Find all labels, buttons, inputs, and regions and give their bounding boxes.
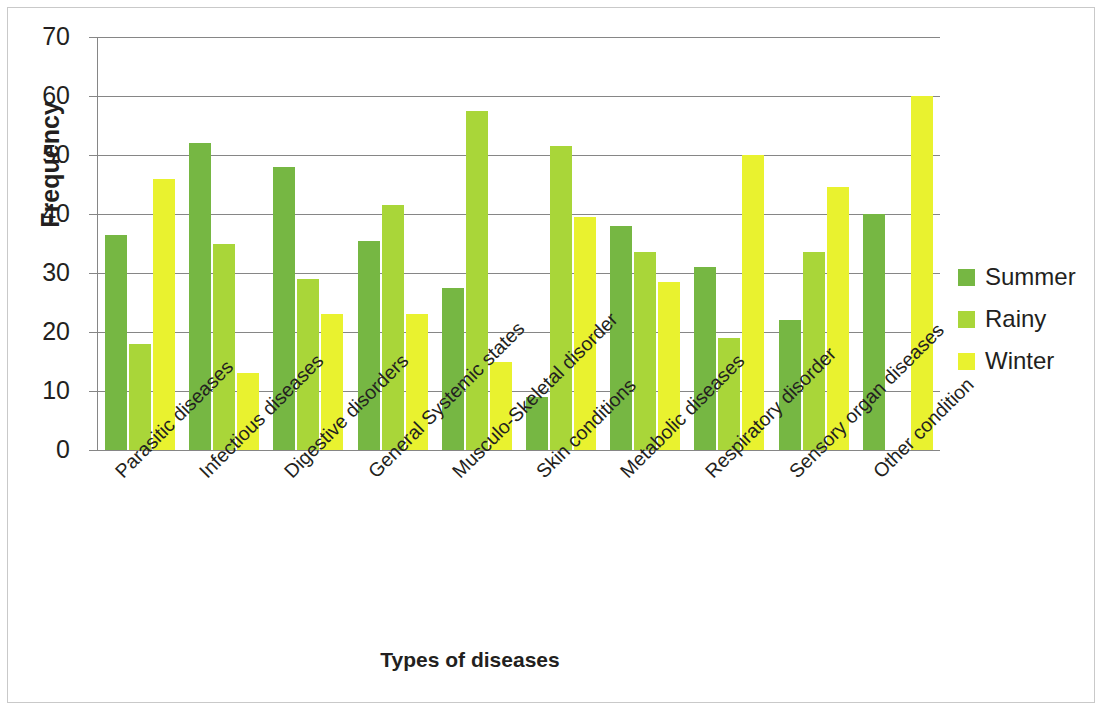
y-tick-0 — [89, 450, 97, 451]
bar-group — [603, 37, 687, 450]
bar[interactable] — [213, 244, 235, 451]
bar[interactable] — [237, 373, 259, 450]
bar[interactable] — [490, 362, 512, 451]
y-tick-label-50: 50 — [24, 142, 70, 167]
y-tick-10 — [89, 391, 97, 392]
y-tick-label-20: 20 — [24, 319, 70, 344]
bar[interactable] — [406, 314, 428, 450]
bar[interactable] — [382, 205, 404, 450]
bar[interactable] — [827, 187, 849, 450]
legend-label: Summer — [985, 265, 1076, 289]
y-tick-50 — [89, 155, 97, 156]
bar[interactable] — [153, 179, 175, 450]
bar[interactable] — [718, 338, 740, 450]
plot-area — [98, 37, 940, 450]
y-tick-70 — [89, 37, 97, 38]
bar-group — [351, 37, 435, 450]
bar[interactable] — [273, 167, 295, 450]
bar[interactable] — [550, 146, 572, 450]
bar[interactable] — [129, 344, 151, 450]
y-tick-20 — [89, 332, 97, 333]
bar[interactable] — [297, 279, 319, 450]
legend-swatch-icon — [958, 353, 975, 370]
y-tick-label-30: 30 — [24, 260, 70, 285]
y-tick-40 — [89, 214, 97, 215]
bar[interactable] — [694, 267, 716, 450]
bar[interactable] — [466, 111, 488, 450]
bar-group — [98, 37, 182, 450]
legend-swatch-icon — [958, 269, 975, 286]
bar[interactable] — [610, 226, 632, 450]
legend-item[interactable]: Rainy — [958, 298, 1076, 340]
bar-group — [856, 37, 940, 450]
bar[interactable] — [779, 320, 801, 450]
y-tick-label-40: 40 — [24, 201, 70, 226]
gridline-0 — [98, 450, 940, 451]
bar[interactable] — [863, 214, 885, 450]
y-tick-label-70: 70 — [24, 24, 70, 49]
y-tick-label-60: 60 — [24, 83, 70, 108]
bar-group — [266, 37, 350, 450]
bar-group — [435, 37, 519, 450]
bar[interactable] — [658, 282, 680, 450]
bar[interactable] — [442, 288, 464, 450]
bar[interactable] — [742, 155, 764, 450]
y-tick-30 — [89, 273, 97, 274]
legend-swatch-icon — [958, 311, 975, 328]
bar[interactable] — [574, 217, 596, 450]
y-tick-label-0: 0 — [24, 437, 70, 462]
bar-group — [182, 37, 266, 450]
bar[interactable] — [526, 397, 548, 450]
legend-label: Winter — [985, 349, 1054, 373]
bar[interactable] — [358, 241, 380, 450]
x-axis-title: Types of diseases — [0, 648, 940, 672]
bar[interactable] — [911, 96, 933, 450]
legend-item[interactable]: Summer — [958, 256, 1076, 298]
y-tick-60 — [89, 96, 97, 97]
chart-page: Frequency 010203040506070 Parasitic dise… — [0, 0, 1102, 710]
y-tick-label-10: 10 — [24, 378, 70, 403]
legend: SummerRainyWinter — [958, 256, 1076, 382]
bar[interactable] — [105, 235, 127, 450]
bar[interactable] — [189, 143, 211, 450]
bar[interactable] — [634, 252, 656, 450]
bar-group — [519, 37, 603, 450]
bar[interactable] — [803, 252, 825, 450]
bar[interactable] — [321, 314, 343, 450]
bar-group — [772, 37, 856, 450]
bar-group — [687, 37, 771, 450]
legend-item[interactable]: Winter — [958, 340, 1076, 382]
legend-label: Rainy — [985, 307, 1046, 331]
